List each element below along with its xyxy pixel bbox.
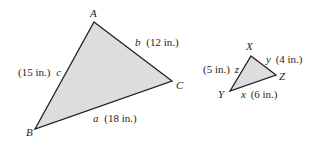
side-length-z: (5 in.): [203, 63, 230, 76]
vertex-label-c: C: [176, 79, 184, 91]
side-label-c: (15 in.) c: [18, 66, 61, 79]
side-label-a: a (18 in.): [93, 112, 137, 125]
vertex-label-a: A: [89, 7, 97, 19]
side-var-x: x: [240, 88, 246, 100]
similar-triangles-diagram: A C B b (12 in.) (15 in.) c a (18 in.) X…: [0, 0, 319, 149]
side-label-z: (5 in.) z: [203, 63, 240, 76]
side-var-b: b: [135, 36, 141, 48]
vertex-label-y: Y: [218, 88, 226, 100]
side-length-c: (15 in.): [18, 66, 51, 79]
side-length-a: (18 in.): [104, 112, 137, 125]
vertex-label-b: B: [26, 126, 33, 138]
side-length-x: (6 in.): [251, 88, 278, 101]
side-length-b: (12 in.): [146, 36, 179, 49]
side-length-y: (4 in.): [276, 53, 303, 66]
side-label-x: x (6 in.): [240, 88, 278, 101]
vertex-label-x: X: [245, 40, 254, 52]
side-var-c: c: [56, 66, 61, 78]
vertex-label-z: Z: [279, 70, 286, 82]
side-var-a: a: [93, 112, 99, 124]
side-var-y: y: [265, 53, 271, 65]
side-label-y: y (4 in.): [265, 53, 303, 66]
side-label-b: b (12 in.): [135, 36, 179, 49]
side-var-z: z: [234, 63, 240, 75]
